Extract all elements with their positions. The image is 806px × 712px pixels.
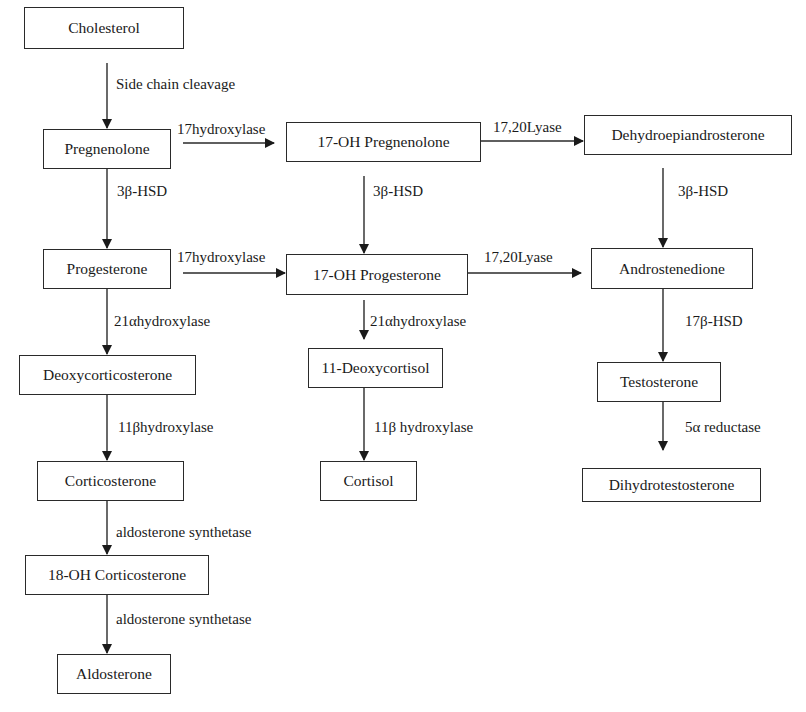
edge-label-side-chain-cleavage: Side chain cleavage — [116, 77, 235, 92]
node-label: Dihydrotestosterone — [609, 476, 735, 494]
edge-label-17hydroxylase-top: 17hydroxylase — [177, 122, 265, 137]
steroid-pathway-diagram: Cholesterol Pregnenolone 17-OH Pregnenol… — [0, 0, 806, 712]
node-label: 17-OH Pregnenolone — [317, 133, 449, 151]
node-deoxycorticosterone: Deoxycorticosterone — [19, 355, 196, 395]
node-dhea: Dehydroepiandrosterone — [584, 115, 792, 155]
edge-label-11bhydroxylase-middle: 11β hydroxylase — [374, 420, 473, 435]
node-label: Cholesterol — [68, 19, 139, 37]
node-label: 17-OH Progesterone — [313, 266, 441, 284]
node-17oh-progesterone: 17-OH Progesterone — [286, 254, 468, 295]
edge-label-11bhydroxylase-left: 11βhydroxylase — [118, 420, 213, 435]
node-17oh-pregnenolone: 17-OH Pregnenolone — [286, 122, 481, 162]
node-label: Progesterone — [67, 260, 148, 278]
node-progesterone: Progesterone — [43, 249, 171, 289]
edge-label-3bhsd-left: 3β-HSD — [117, 184, 167, 199]
node-label: Testosterone — [620, 373, 698, 391]
node-label: Cortisol — [344, 472, 394, 490]
edge-label-3bhsd-middle: 3β-HSD — [373, 184, 423, 199]
edge-label-21ahydroxylase-left: 21αhydroxylase — [114, 314, 210, 329]
edge-label-17hydroxylase-mid: 17hydroxylase — [177, 250, 265, 265]
edge-label-21ahydroxylase-middle: 21αhydroxylase — [370, 314, 466, 329]
node-cortisol: Cortisol — [320, 461, 417, 501]
node-label: 18-OH Corticosterone — [48, 566, 186, 584]
edge-label-1720lyase-top: 17,20Lyase — [493, 120, 562, 135]
node-label: Aldosterone — [76, 665, 152, 683]
node-label: Pregnenolone — [64, 140, 149, 158]
edge-label-aldo-synthetase-1: aldosterone synthetase — [116, 525, 251, 540]
node-label: Androstenedione — [619, 260, 725, 278]
node-pregnenolone: Pregnenolone — [43, 129, 171, 169]
node-corticosterone: Corticosterone — [37, 461, 184, 501]
node-11-deoxycortisol: 11-Deoxycortisol — [308, 348, 443, 388]
edge-label-1720lyase-mid: 17,20Lyase — [484, 250, 553, 265]
node-label: Corticosterone — [65, 472, 156, 490]
edge-label-5areductase: 5α reductase — [685, 420, 761, 435]
node-aldosterone: Aldosterone — [57, 654, 171, 694]
edge-label-aldo-synthetase-2: aldosterone synthetase — [116, 612, 251, 627]
node-androstenedione: Androstenedione — [591, 248, 753, 289]
edge-label-17bhsd: 17β-HSD — [685, 314, 743, 329]
node-label: 11-Deoxycortisol — [322, 359, 430, 377]
node-dihydrotestosterone: Dihydrotestosterone — [582, 468, 761, 502]
node-testosterone: Testosterone — [597, 362, 721, 402]
node-label: Dehydroepiandrosterone — [611, 126, 764, 144]
node-label: Deoxycorticosterone — [43, 366, 172, 384]
node-18oh-corticosterone: 18-OH Corticosterone — [25, 555, 209, 595]
node-cholesterol: Cholesterol — [24, 7, 184, 49]
edge-label-3bhsd-right: 3β-HSD — [678, 184, 728, 199]
